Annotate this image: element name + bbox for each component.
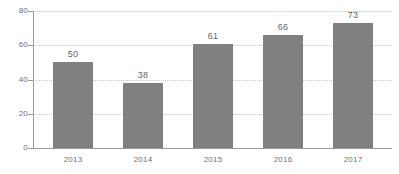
y-axis-label-0: 0: [4, 144, 28, 152]
y-axis-label-40: 40: [4, 76, 28, 84]
y-tick-60: [28, 45, 34, 46]
x-axis-line: [33, 148, 392, 149]
x-axis-label-2014: 2014: [123, 155, 163, 164]
y-tick-0: [28, 148, 34, 149]
x-axis-label-2017: 2017: [333, 155, 373, 164]
y-tick-40: [28, 80, 34, 81]
bar-2017[interactable]: [333, 23, 373, 148]
bar-2014[interactable]: [123, 83, 163, 148]
x-axis-label-2013: 2013: [53, 155, 93, 164]
bar-value-2013: 50: [53, 50, 93, 59]
bar-value-2016: 66: [263, 23, 303, 32]
y-tick-80: [28, 11, 34, 12]
y-tick-20: [28, 114, 34, 115]
x-axis-label-2016: 2016: [263, 155, 303, 164]
y-axis-label-20: 20: [4, 110, 28, 118]
bar-value-2015: 61: [193, 32, 233, 41]
bar-chart: 80 60 40 20 0 50 38 61 66 73 2013 2014 2…: [0, 0, 399, 174]
x-axis-label-2015: 2015: [193, 155, 233, 164]
y-axis-label-80: 80: [4, 7, 28, 15]
bar-value-2014: 38: [123, 71, 163, 80]
bar-2013[interactable]: [53, 62, 93, 148]
bar-value-2017: 73: [333, 11, 373, 20]
bar-2015[interactable]: [193, 44, 233, 148]
bar-2016[interactable]: [263, 35, 303, 148]
y-axis-label-60: 60: [4, 41, 28, 49]
